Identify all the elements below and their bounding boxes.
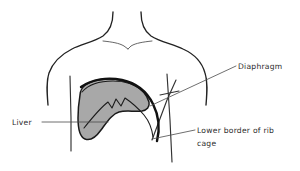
rib-right-margin (167, 74, 172, 162)
anatomy-diagram-canvas: Diaphragm Liver Lower border of rib cage (0, 0, 300, 171)
rib-left-margin (70, 76, 71, 151)
label-diaphragm: Diaphragm (238, 62, 283, 71)
torso-right-outline (141, 12, 207, 105)
anatomy-figure: Diaphragm Liver Lower border of rib cage (0, 0, 300, 171)
leader-line-diaphragm (150, 66, 236, 106)
label-liver: Liver (12, 118, 33, 127)
label-rib-cage-line-2: cage (197, 139, 216, 148)
label-rib-cage-line-1: Lower border of rib (197, 126, 274, 135)
clavicle-right-line (128, 41, 152, 49)
clavicle-notch-group (103, 41, 152, 49)
clavicle-left-line (103, 41, 128, 49)
